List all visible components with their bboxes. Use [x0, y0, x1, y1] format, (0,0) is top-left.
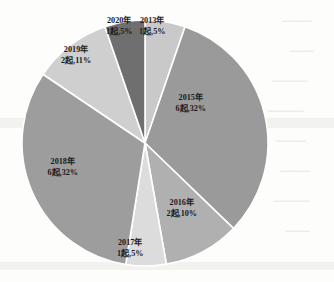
pie-graphic: [0, 0, 334, 282]
pie-chart-figure: ▁▁▁▁▁ ▁▁▁▁ ▁▁▁▁▁▁ ▁▁▁▁▁▁ ▁▁▁▁▁ ▁▁▁▁▁ ▁▁▁…: [0, 0, 334, 282]
pie-slices-group: [22, 20, 268, 266]
